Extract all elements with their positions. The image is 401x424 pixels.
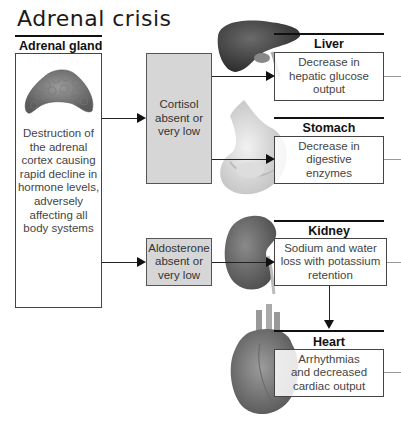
liver-right-connector: [384, 76, 401, 77]
cortisol-label: Cortisol absent or very low: [150, 98, 208, 139]
connector-kidney-heart: [329, 286, 330, 322]
stomach-header-rule: [274, 117, 384, 119]
connector-gland-aldosterone: [102, 262, 138, 263]
heart-effect-text: Arrhythmias and decreased cardiac output: [289, 353, 369, 394]
heart-label: Heart: [274, 335, 384, 349]
title-underline: [15, 35, 102, 37]
arrow-head-icon: [266, 257, 275, 267]
kidney-right-connector: [387, 262, 401, 263]
stomach-effect-text: Decrease in digestive enzymes: [294, 140, 364, 181]
connector-cortisol-liver: [212, 76, 268, 77]
liver-effect-box: Decrease in hepatic glucose output: [274, 52, 384, 101]
stomach-right-connector: [384, 159, 401, 160]
adrenal-gland-illustration-icon: [20, 63, 98, 118]
stomach-effect-box: Decrease in digestive enzymes: [274, 136, 384, 184]
adrenal-gland-description: Destruction of the adrenal cortex causin…: [17, 127, 100, 236]
heart-header-rule: [274, 330, 384, 332]
arrow-head-icon: [137, 113, 146, 123]
heart-right-connector: [384, 372, 401, 373]
aldosterone-label: Aldosterone absent or very low: [147, 242, 211, 283]
stomach-label: Stomach: [274, 121, 384, 135]
heart-effect-box: Arrhythmias and decreased cardiac output: [274, 349, 384, 397]
connector-aldosterone-kidney: [212, 262, 268, 263]
diagram-title: Adrenal crisis: [17, 6, 172, 31]
arrow-head-icon: [137, 257, 146, 267]
liver-effect-text: Decrease in hepatic glucose output: [289, 56, 369, 97]
connector-cortisol-stomach: [212, 159, 268, 160]
kidney-label: Kidney: [274, 224, 384, 238]
arrow-head-icon: [266, 71, 275, 81]
liver-header-rule: [274, 33, 384, 35]
kidney-effect-text: Sodium and water loss with potassium ret…: [275, 242, 386, 283]
adrenal-gland-label: Adrenal gland: [19, 39, 102, 53]
kidney-effect-box: Sodium and water loss with potassium ret…: [274, 238, 387, 286]
cortisol-box: Cortisol absent or very low: [146, 53, 212, 184]
arrow-head-icon: [266, 154, 275, 164]
kidney-illustration-icon: [222, 214, 282, 294]
liver-label: Liver: [274, 37, 384, 51]
aldosterone-box: Aldosterone absent or very low: [146, 238, 212, 286]
connector-gland-cortisol: [102, 118, 138, 119]
arrow-head-icon: [324, 320, 334, 329]
kidney-header-rule: [274, 220, 384, 222]
